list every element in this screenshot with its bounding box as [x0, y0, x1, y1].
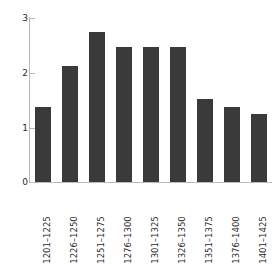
y-axis-tick-0: [30, 182, 35, 183]
x-label-slot: 1351–1375: [191, 186, 218, 242]
x-label-slot: 1301–1325: [138, 186, 165, 242]
x-axis-tick-label: 1401–1425: [259, 216, 268, 264]
bar-slot: [111, 17, 138, 182]
bar-series: [30, 17, 272, 182]
bar-slot: [218, 17, 245, 182]
bar-slot: [84, 17, 111, 182]
x-axis-tick-label: 1276–1300: [124, 216, 133, 264]
bar-slot: [30, 17, 57, 182]
bar-slot: [138, 17, 165, 182]
x-axis-tick-label: 1351–1375: [205, 216, 214, 264]
bar[interactable]: [89, 32, 105, 182]
bar[interactable]: [170, 47, 186, 182]
x-label-slot: 1376–1400: [218, 186, 245, 242]
x-label-slot: 1201–1225: [30, 186, 57, 242]
bar[interactable]: [62, 66, 78, 182]
bar[interactable]: [224, 107, 240, 182]
bar[interactable]: [35, 107, 51, 182]
bar-slot: [191, 17, 218, 182]
x-axis-tick-label: 1201–1225: [43, 216, 52, 264]
bar-slot: [245, 17, 272, 182]
bar-slot: [57, 17, 84, 182]
x-axis-tick-label: 1376–1400: [232, 216, 241, 264]
x-axis-labels: 1201–1225 1226–1250 1251–1275 1276–1300 …: [30, 186, 272, 242]
x-label-slot: 1276–1300: [111, 186, 138, 242]
y-axis-tick-label-1: 1: [8, 124, 28, 133]
bar[interactable]: [116, 47, 132, 182]
bar[interactable]: [143, 47, 159, 182]
y-axis-tick-label-2: 2: [8, 69, 28, 78]
x-label-slot: 1251–1275: [84, 186, 111, 242]
bar-slot: [164, 17, 191, 182]
x-label-slot: 1401–1425: [245, 186, 272, 242]
bar[interactable]: [251, 114, 267, 182]
x-axis-tick-label: 1226–1250: [70, 216, 79, 264]
plot-area: [30, 17, 272, 182]
y-axis-tick-label-0: 0: [8, 178, 28, 187]
bar[interactable]: [197, 99, 213, 182]
x-axis-tick-label: 1326–1350: [178, 216, 187, 264]
x-axis-tick-label: 1251–1275: [97, 216, 106, 264]
x-label-slot: 1226–1250: [57, 186, 84, 242]
x-axis-tick-label: 1301–1325: [151, 216, 160, 264]
x-axis-line: [29, 182, 272, 183]
y-axis-tick-label-3: 3: [8, 14, 28, 23]
x-label-slot: 1326–1350: [164, 186, 191, 242]
